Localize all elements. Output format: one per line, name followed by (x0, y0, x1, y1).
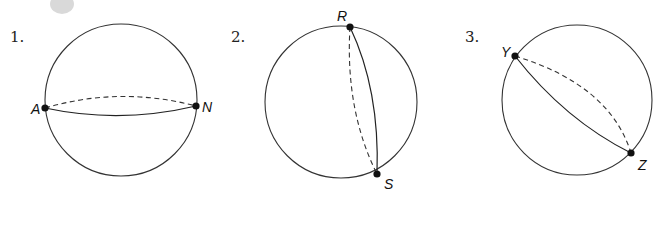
point-r-label: R (337, 8, 347, 24)
diagram-canvas: 1.AN 2.RS 3.YZ (0, 0, 665, 233)
figure-2-sphere: 2.RS (231, 8, 417, 192)
figure-number-label: 1. (10, 28, 24, 46)
hidden-great-circle-arc (515, 56, 631, 153)
point-s-marker (373, 170, 380, 177)
point-a-label: A (30, 101, 40, 117)
point-r-marker (346, 23, 353, 30)
point-y-label: Y (501, 44, 512, 60)
visible-great-circle-arc (515, 56, 631, 153)
figure-number-label: 3. (465, 28, 479, 46)
point-n-label: N (202, 99, 213, 115)
visible-great-circle-arc (45, 106, 196, 116)
smudge-artifact (50, 0, 74, 14)
figure-number-label: 2. (231, 28, 245, 46)
sphere-outline (45, 24, 197, 176)
point-y-marker (511, 52, 518, 59)
figure-3-sphere: 3.YZ (465, 25, 652, 175)
point-n-marker (192, 102, 199, 109)
point-z-label: Z (637, 157, 647, 173)
hidden-great-circle-arc (45, 96, 196, 108)
visible-great-circle-arc (350, 27, 377, 174)
point-z-marker (627, 149, 634, 156)
point-s-label: S (384, 176, 394, 192)
point-a-marker (41, 104, 48, 111)
sphere-outline (265, 26, 417, 178)
figure-1-sphere: 1.AN (10, 24, 213, 176)
